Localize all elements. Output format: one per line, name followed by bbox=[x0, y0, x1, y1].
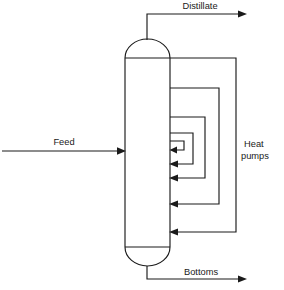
diagram-canvas: Distillate Feed Bottoms Heat pumps bbox=[0, 0, 284, 290]
distillate-line bbox=[147, 14, 238, 40]
feed-stream bbox=[2, 147, 126, 155]
column-bottom-head bbox=[125, 247, 170, 266]
heat-pumps-label-line1: Heat bbox=[244, 139, 264, 149]
heat-pump-loop-group bbox=[169, 58, 236, 236]
heat-pumps-label-line2: pumps bbox=[241, 151, 269, 161]
heat-pump-loop-1 bbox=[169, 58, 236, 236]
column-top-head bbox=[125, 39, 170, 58]
bottoms-arrow-head bbox=[238, 275, 247, 282]
heat-pump-loop-1-path bbox=[170, 58, 236, 232]
distillation-column bbox=[125, 39, 170, 266]
heat-pump-loop-5-arrow-head bbox=[170, 147, 178, 154]
process-flow-diagram: Distillate Feed Bottoms Heat pumps bbox=[0, 0, 284, 290]
distillate-arrow-head bbox=[238, 10, 247, 17]
distillate-label: Distillate bbox=[182, 1, 217, 11]
heat-pump-loop-2-path bbox=[170, 88, 219, 204]
feed-label: Feed bbox=[53, 137, 74, 147]
bottoms-label: Bottoms bbox=[184, 267, 218, 277]
distillate-stream bbox=[147, 10, 247, 40]
heat-pump-loop-5 bbox=[170, 141, 185, 153]
